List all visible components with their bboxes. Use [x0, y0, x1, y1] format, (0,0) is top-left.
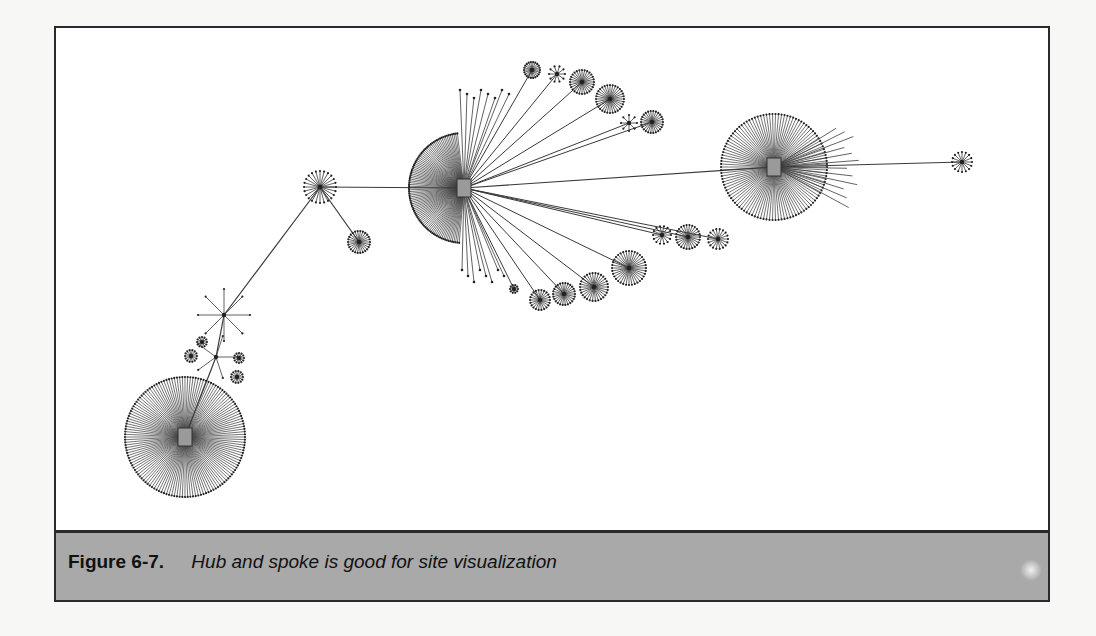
- edge-line: [464, 188, 540, 300]
- figure-label: Figure 6-7.: [68, 551, 164, 572]
- glare-highlight: [1020, 559, 1042, 581]
- cluster-node: [548, 65, 566, 82]
- cluster-node: [611, 250, 647, 286]
- cluster-node: [233, 352, 245, 364]
- cluster-node: [347, 230, 371, 254]
- edge-line: [464, 188, 564, 294]
- cluster-node: [196, 336, 208, 348]
- figure-title: Hub and spoke is good for site visualiza…: [191, 551, 556, 572]
- cluster-node: [509, 284, 519, 294]
- edge-line: [464, 82, 582, 188]
- cluster-node: [951, 151, 973, 173]
- edge-line: [224, 187, 320, 315]
- caption-bar: Figure 6-7. Hub and spoke is good for si…: [56, 530, 1048, 600]
- cluster-node: [707, 228, 729, 250]
- cluster-node: [595, 84, 625, 114]
- figure-caption: Figure 6-7. Hub and spoke is good for si…: [68, 551, 557, 573]
- hub-node: [124, 376, 246, 498]
- cluster-node: [579, 272, 609, 302]
- page-document-icon: [767, 158, 781, 176]
- cluster-node: [675, 224, 701, 250]
- edge-line: [464, 188, 594, 287]
- hub-node: [720, 113, 859, 221]
- edge-line: [464, 188, 718, 239]
- cluster-node: [197, 288, 251, 342]
- hub-spoke-diagram: [56, 28, 1048, 530]
- cluster-node: [230, 370, 244, 384]
- cluster-node: [640, 110, 664, 134]
- edge-line: [464, 188, 688, 237]
- cluster-node: [569, 69, 595, 95]
- edge-line: [464, 188, 514, 289]
- edge-line: [464, 122, 652, 188]
- cluster-node: [529, 289, 551, 311]
- cluster-node: [303, 170, 337, 204]
- page-document-icon: [457, 179, 471, 197]
- edge-line: [464, 99, 610, 188]
- network-graph: [56, 28, 1048, 530]
- edge-line: [464, 74, 557, 188]
- edge-line: [464, 188, 629, 268]
- hub-node: [408, 132, 471, 244]
- cluster-node: [184, 349, 198, 363]
- cluster-node: [620, 114, 638, 132]
- edge-line: [464, 188, 662, 235]
- page-document-icon: [178, 428, 192, 446]
- figure-frame: Figure 6-7. Hub and spoke is good for si…: [54, 26, 1050, 602]
- cluster-node: [523, 61, 541, 79]
